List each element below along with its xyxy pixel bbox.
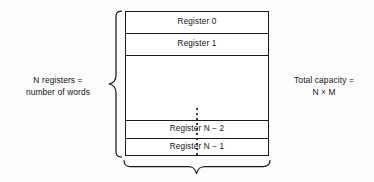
register-row-0-label: Register 0	[178, 18, 217, 26]
register-file-diagram: N registers = number of words Register 0…	[0, 0, 374, 182]
register-row-n-minus-1: Register N − 1	[126, 139, 268, 155]
left-annotation: N registers = number of words	[12, 75, 104, 98]
register-row-1: Register 1	[126, 34, 268, 56]
left-annotation-line-1: N registers =	[12, 75, 104, 87]
register-row-ellipsis	[126, 56, 268, 121]
right-annotation-line-1: Total capacity =	[278, 75, 370, 87]
register-row-n-minus-2-label: Register N − 2	[170, 125, 225, 133]
register-stack: Register 0 Register 1 Register N − 2 Reg…	[125, 11, 269, 156]
register-row-0: Register 0	[126, 12, 268, 34]
right-annotation: Total capacity = N × M	[278, 75, 370, 98]
register-row-1-label: Register 1	[178, 40, 217, 48]
bottom-brace	[122, 159, 272, 180]
right-annotation-line-2: N × M	[278, 87, 370, 99]
register-row-n-minus-1-label: Register N − 1	[170, 143, 225, 151]
left-annotation-line-2: number of words	[12, 87, 104, 99]
left-brace	[107, 9, 123, 159]
register-row-n-minus-2: Register N − 2	[126, 121, 268, 139]
